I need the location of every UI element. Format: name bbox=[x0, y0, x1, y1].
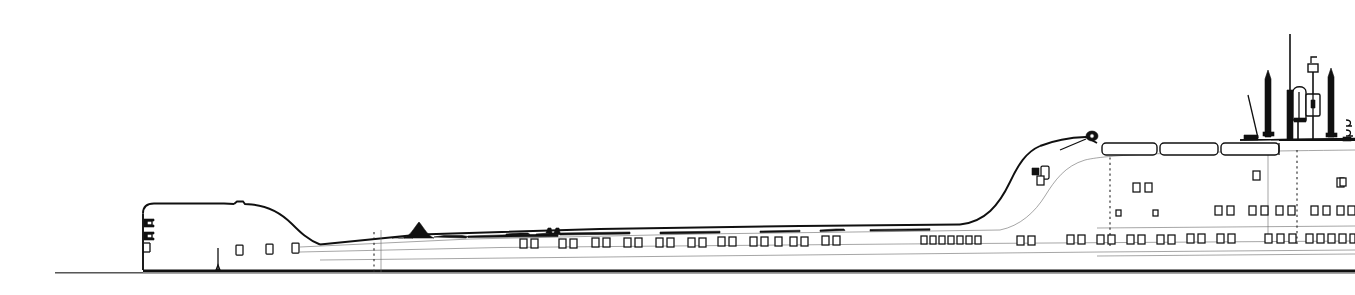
deck-vent-post bbox=[546, 228, 552, 233]
station-lines-group bbox=[374, 146, 1297, 272]
porthole bbox=[790, 237, 797, 246]
antenna-foot-block bbox=[1244, 135, 1258, 140]
drawing-canvas bbox=[0, 0, 1355, 295]
deck-rail-strip bbox=[660, 231, 720, 234]
boat-deck-unit bbox=[1160, 143, 1218, 155]
porthole bbox=[775, 237, 782, 246]
boat-deck-unit bbox=[1102, 143, 1157, 155]
deck-rail-strip bbox=[870, 229, 930, 231]
forecastle-window bbox=[292, 243, 299, 253]
house-window bbox=[1323, 206, 1330, 215]
house-window bbox=[1145, 183, 1152, 192]
porthole bbox=[624, 238, 631, 247]
porthole bbox=[822, 236, 829, 245]
porthole bbox=[1317, 234, 1324, 243]
winch-hub bbox=[1090, 134, 1094, 138]
porthole bbox=[1067, 235, 1074, 244]
porthole bbox=[1289, 234, 1296, 243]
forecastle-deck-edge bbox=[143, 204, 234, 214]
anchor-hawse-group bbox=[143, 219, 154, 252]
porthole bbox=[1097, 235, 1104, 244]
antenna-whip bbox=[1311, 57, 1317, 63]
porthole bbox=[1127, 235, 1134, 244]
porthole bbox=[729, 237, 736, 246]
deck-crane-silhouette bbox=[404, 222, 434, 238]
porthole bbox=[656, 238, 663, 247]
stern-horn-fitting bbox=[1346, 120, 1352, 126]
hull-markings-group bbox=[216, 248, 220, 270]
house-window bbox=[1348, 206, 1355, 215]
porthole bbox=[699, 238, 706, 247]
forecastle-break-curve bbox=[252, 205, 320, 245]
porthole bbox=[1078, 235, 1085, 244]
forecastle-windows-group bbox=[236, 243, 299, 255]
porthole bbox=[1339, 234, 1346, 243]
hawse-opening-lower bbox=[147, 234, 152, 238]
porthole bbox=[939, 236, 945, 244]
deck-fittings-group bbox=[392, 222, 930, 238]
masts-group bbox=[1240, 34, 1355, 141]
stern-fitting-block bbox=[1343, 137, 1351, 141]
porthole bbox=[531, 239, 538, 248]
hawse-opening-upper bbox=[147, 221, 152, 225]
aft-house-forward-curve bbox=[960, 146, 1040, 225]
porthole bbox=[1277, 234, 1284, 243]
signal-mast-aft bbox=[1328, 68, 1334, 137]
forecastle-window bbox=[266, 244, 273, 254]
house-window bbox=[1311, 206, 1318, 215]
deck-rail-strip bbox=[560, 232, 630, 235]
house-window bbox=[1227, 206, 1234, 215]
porthole bbox=[570, 239, 577, 248]
house-window bbox=[1215, 206, 1222, 215]
porthole bbox=[801, 237, 808, 246]
signal-mast-forward bbox=[1265, 70, 1271, 137]
mast-foot-aft bbox=[1326, 133, 1337, 137]
porthole bbox=[1138, 235, 1145, 244]
house-window bbox=[1288, 206, 1295, 215]
porthole bbox=[966, 236, 972, 244]
porthole bbox=[1168, 235, 1175, 244]
house-window-small bbox=[1153, 210, 1158, 216]
deck-rail-strip bbox=[760, 230, 800, 232]
porthole bbox=[930, 236, 936, 244]
house-window bbox=[1133, 183, 1140, 192]
porthole bbox=[750, 237, 757, 246]
house-window bbox=[1276, 206, 1283, 215]
porthole bbox=[1028, 236, 1035, 245]
porthole bbox=[957, 236, 963, 244]
porthole bbox=[1108, 235, 1115, 244]
funnel-band bbox=[1294, 118, 1306, 122]
forecastle-bollard bbox=[234, 202, 252, 205]
house-window bbox=[1337, 206, 1344, 215]
porthole bbox=[1350, 234, 1355, 243]
aft-superstructure-group bbox=[1032, 131, 1355, 216]
porthole bbox=[1228, 234, 1235, 243]
stern-horn-fitting bbox=[1346, 130, 1353, 136]
bulwark-hairline bbox=[300, 230, 1000, 247]
porthole bbox=[559, 239, 566, 248]
house-window bbox=[1249, 206, 1256, 215]
porthole bbox=[948, 236, 954, 244]
porthole bbox=[603, 238, 610, 247]
house-window bbox=[1261, 206, 1268, 215]
deck-fitting-block bbox=[434, 236, 468, 239]
deck-vent-small bbox=[1116, 210, 1121, 216]
aft-deck-hairline bbox=[1097, 226, 1355, 228]
porthole bbox=[1017, 236, 1024, 245]
porthole bbox=[688, 238, 695, 247]
waterline-group bbox=[55, 271, 1355, 274]
forecastle-window bbox=[236, 245, 243, 255]
porthole bbox=[761, 237, 768, 246]
deck-vent-post bbox=[554, 228, 560, 233]
porthole bbox=[1328, 234, 1335, 243]
porthole bbox=[592, 238, 599, 247]
radar-scanner-box bbox=[1308, 64, 1318, 72]
porthole bbox=[975, 236, 981, 244]
porthole bbox=[520, 239, 527, 248]
porthole bbox=[635, 238, 642, 247]
raked-antenna-strut bbox=[1248, 95, 1258, 138]
deck-vent-small bbox=[1340, 178, 1346, 186]
house-window bbox=[1037, 176, 1044, 185]
main-mast-lower bbox=[1287, 90, 1293, 140]
deck-fitting-block bbox=[820, 229, 845, 232]
